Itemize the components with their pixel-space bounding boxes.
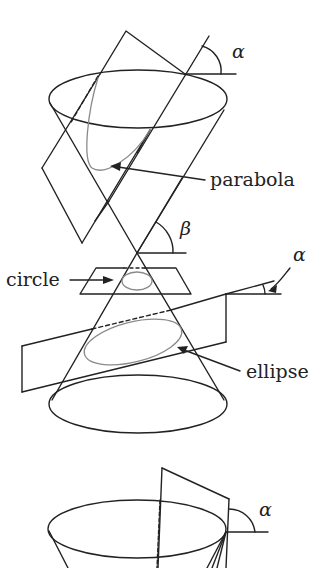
circle-curve bbox=[122, 272, 152, 290]
upper-cone-rim bbox=[49, 70, 227, 128]
ellipse-arrow bbox=[177, 346, 240, 371]
circle-arrow bbox=[70, 276, 114, 284]
alpha-mid-angle-marker bbox=[226, 268, 290, 294]
upper-cone-left-side bbox=[50, 103, 137, 253]
ellipse-curve bbox=[80, 310, 187, 373]
lower-cone-base bbox=[49, 375, 227, 433]
ellipse-label: ellipse bbox=[246, 362, 309, 381]
alpha-mid-label: α bbox=[293, 245, 306, 264]
alpha-top-label: α bbox=[232, 42, 245, 61]
beta-angle-marker bbox=[137, 222, 186, 253]
bottom-cone-rim bbox=[48, 500, 226, 558]
upper-cone bbox=[49, 70, 227, 253]
alpha-bottom-label: α bbox=[259, 500, 272, 519]
circle-label: circle bbox=[6, 270, 60, 289]
parabola-label: parabola bbox=[210, 170, 295, 189]
beta-label: β bbox=[180, 219, 191, 238]
bottom-cone bbox=[48, 500, 226, 568]
generator-line-right bbox=[137, 178, 182, 253]
parabola-plane bbox=[42, 31, 209, 243]
alpha-top-angle-marker bbox=[185, 46, 236, 74]
